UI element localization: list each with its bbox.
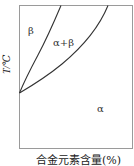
y-axis-label: T/℃ (1, 54, 12, 74)
region-label-alpha: α (97, 104, 104, 114)
phase-diagram (0, 0, 134, 166)
x-axis-label: 合金元素含量(%) (36, 151, 121, 166)
alpha-transus-curve (20, 6, 109, 94)
region-label-alpha-beta: α+β (53, 38, 74, 48)
region-label-beta: β (28, 26, 34, 36)
plot-frame (20, 6, 133, 149)
